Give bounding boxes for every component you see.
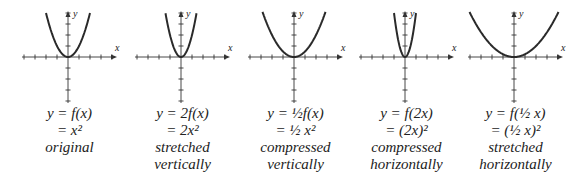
- y-axis-label: y: [518, 8, 524, 19]
- x-axis-label: x: [560, 42, 566, 53]
- transformation-label-2: vertically: [238, 156, 353, 173]
- equation-line-1: y = f(2x): [349, 105, 464, 122]
- y-axis-label: y: [409, 8, 415, 19]
- equation-line-1: y = f(x): [12, 105, 127, 122]
- parabola-graph: x y: [125, 0, 240, 105]
- y-axis-arrow-icon: [66, 11, 71, 17]
- equation-line-2: = ½ x²: [238, 122, 353, 139]
- graph-panel-4: x y y = f(2x) = (2x)² compressed horizon…: [349, 0, 464, 186]
- y-axis-label: y: [185, 8, 191, 19]
- y-axis-arrow-icon: [512, 11, 517, 17]
- transformation-label: stretched: [125, 139, 240, 156]
- parabola-graph: x y: [458, 0, 573, 105]
- x-axis-label: x: [451, 42, 457, 53]
- parabola-graph: x y: [238, 0, 353, 105]
- equation-line-2: = x²: [12, 122, 127, 139]
- parabola-graph: x y: [12, 0, 127, 105]
- transformation-label-2: horizontally: [458, 156, 573, 173]
- y-axis-arrow-icon: [292, 11, 297, 17]
- transformation-label: compressed: [349, 139, 464, 156]
- transformation-label: stretched: [458, 139, 573, 156]
- equation-line-2: = (2x)²: [349, 122, 464, 139]
- x-axis-label: x: [227, 42, 233, 53]
- transformation-label: compressed: [238, 139, 353, 156]
- x-axis-label: x: [340, 42, 346, 53]
- y-axis-arrow-icon: [403, 11, 408, 17]
- equation-line-2: = (½ x)²: [458, 122, 573, 139]
- graph-panel-3: x y y = ½f(x) = ½ x² compressed vertical…: [238, 0, 353, 186]
- x-axis-label: x: [114, 42, 120, 53]
- graph-panel-5: x y y = f(½ x) = (½ x)² stretched horizo…: [458, 0, 573, 186]
- transformation-label: original: [12, 139, 127, 156]
- y-axis-arrow-icon: [179, 11, 184, 17]
- y-axis-label: y: [298, 8, 304, 19]
- parabola-graph: x y: [349, 0, 464, 105]
- y-axis-label: y: [72, 8, 78, 19]
- transformation-label-2: horizontally: [349, 156, 464, 173]
- equation-line-1: y = f(½ x): [458, 105, 573, 122]
- equation-line-2: = 2x²: [125, 122, 240, 139]
- graph-panel-2: x y y = 2f(x) = 2x² stretched vertically: [125, 0, 240, 186]
- graph-panel-1: x y y = f(x) = x² original: [12, 0, 127, 186]
- equation-line-1: y = 2f(x): [125, 105, 240, 122]
- transformation-label-2: vertically: [125, 156, 240, 173]
- equation-line-1: y = ½f(x): [238, 105, 353, 122]
